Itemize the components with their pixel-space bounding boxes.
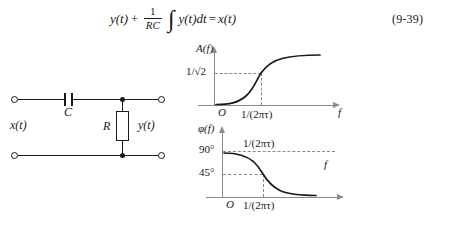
- fraction-denominator: RC: [144, 19, 162, 31]
- amplitude-xtick-label: 1/(2πτ): [241, 108, 272, 120]
- terminal-input-top: [11, 96, 18, 103]
- output-signal-label: y(t): [138, 118, 155, 133]
- phase-ytick-label-45: 45°: [199, 166, 214, 178]
- phase-origin-label: O: [226, 198, 234, 210]
- capacitor-label: C: [64, 105, 72, 120]
- equation-lhs-term: y(t): [110, 11, 128, 27]
- phase-upper-asymptote-label: 1/(2πτ): [243, 137, 274, 149]
- figure-canvas: y(t) + 1 RC ∫ y(t)dt = x(t) (9-39): [0, 0, 460, 227]
- phase-ytick-label-90: 90°: [199, 143, 214, 155]
- amplitude-ytick-label: 1/√2: [186, 65, 206, 77]
- terminal-output-bottom: [158, 152, 165, 159]
- amplitude-y-axis-label: A(f): [196, 42, 213, 54]
- wire-top-left: [18, 99, 64, 100]
- fraction-numerator: 1: [148, 6, 158, 18]
- integral-icon: ∫: [168, 12, 175, 26]
- phase-response-curve: [196, 128, 366, 210]
- wire-bottom-output: [122, 155, 160, 156]
- phase-response-plot: φ(f) f O 90° 45° 1/(2πτ) 1/(2πτ): [196, 128, 366, 210]
- phase-x-axis-label: f: [324, 158, 327, 170]
- equation-rhs: x(t): [218, 11, 236, 27]
- input-signal-label: x(t): [10, 118, 27, 133]
- resistor-body: [116, 111, 129, 141]
- terminal-output-top: [158, 96, 165, 103]
- amplitude-x-axis-label: f: [338, 106, 341, 118]
- terminal-input-bottom: [11, 152, 18, 159]
- wire-top-output: [122, 99, 160, 100]
- resistor-label: R: [103, 119, 110, 134]
- phase-y-axis-label: φ(f): [198, 122, 214, 134]
- amplitude-ytick-text: 1/√2: [186, 65, 206, 77]
- equation-9-39: y(t) + 1 RC ∫ y(t)dt = x(t): [110, 6, 236, 31]
- wire-top-right: [73, 99, 122, 100]
- equation-number: (9-39): [392, 12, 423, 27]
- junction-dot-bottom: [120, 153, 125, 158]
- amplitude-response-plot: A(f) f O 1/√2 1/(2πτ): [196, 48, 356, 110]
- amplitude-response-curve: [196, 48, 356, 110]
- rc-highpass-circuit: C R x(t) y(t): [0, 55, 190, 170]
- equation-integrand: y(t)dt: [178, 11, 206, 27]
- junction-dot-top: [120, 97, 125, 102]
- amplitude-origin-label: O: [218, 106, 226, 118]
- wire-bottom-left: [18, 155, 122, 156]
- equation-fraction: 1 RC: [144, 6, 162, 31]
- equation-equals-operator: =: [209, 11, 216, 27]
- phase-xtick-label: 1/(2πτ): [243, 199, 274, 211]
- equation-plus-operator: +: [130, 11, 139, 27]
